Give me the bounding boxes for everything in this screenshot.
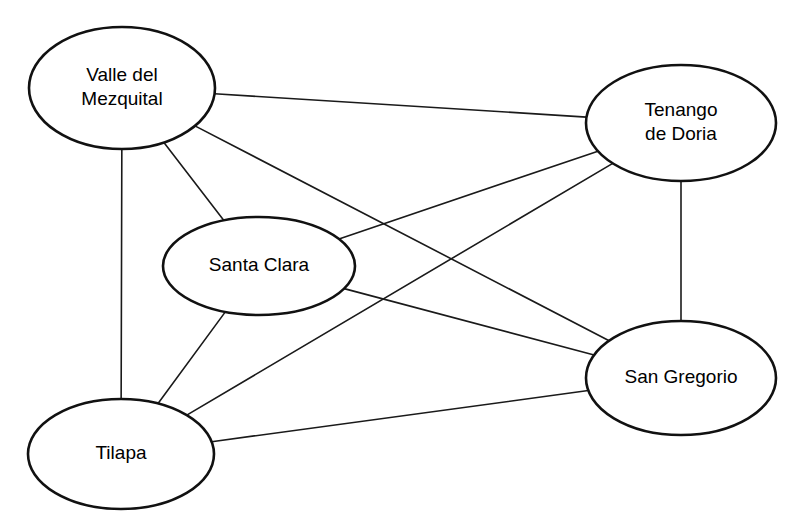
node-san-gregorio[interactable]: San Gregorio — [586, 321, 776, 435]
node-santa-clara[interactable]: Santa Clara — [163, 217, 355, 315]
node-tilapa[interactable]: Tilapa — [28, 399, 214, 509]
node-ellipse-san-gregorio[interactable] — [586, 321, 776, 435]
node-ellipse-santa-clara[interactable] — [163, 217, 355, 315]
edge-valle-tilapa — [121, 149, 122, 399]
network-diagram: Valle delMezquitalTenangode DoriaSanta C… — [0, 0, 794, 532]
edge-tilapa-sangregorio — [212, 391, 589, 442]
edge-valle-tenango — [215, 94, 587, 117]
node-ellipse-tenango-de-doria[interactable] — [586, 65, 776, 181]
nodes-layer: Valle delMezquitalTenangode DoriaSanta C… — [28, 27, 776, 509]
node-valle-del-mezquital[interactable]: Valle delMezquital — [29, 27, 215, 149]
edge-valle-santaclara — [164, 142, 224, 220]
edge-santaclara-tilapa — [158, 312, 225, 404]
node-ellipse-valle-del-mezquital[interactable] — [29, 27, 215, 149]
node-tenango-de-doria[interactable]: Tenangode Doria — [586, 65, 776, 181]
node-ellipse-tilapa[interactable] — [28, 399, 214, 509]
edge-santaclara-sangregorio — [344, 289, 594, 355]
network-diagram-canvas: Valle delMezquitalTenangode DoriaSanta C… — [0, 0, 794, 532]
